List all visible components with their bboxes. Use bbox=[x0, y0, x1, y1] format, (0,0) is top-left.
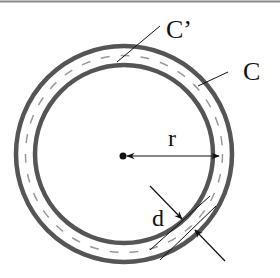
label-d: d bbox=[152, 205, 164, 231]
diagram-canvas: C’ C r d bbox=[0, 0, 280, 278]
label-c-prime: C’ bbox=[166, 15, 192, 44]
label-c: C bbox=[243, 57, 260, 86]
thickness-arrow-outward bbox=[195, 230, 225, 261]
ring-diagram: C’ C r d bbox=[0, 0, 280, 278]
center-point bbox=[120, 153, 127, 160]
label-r: r bbox=[168, 125, 176, 151]
